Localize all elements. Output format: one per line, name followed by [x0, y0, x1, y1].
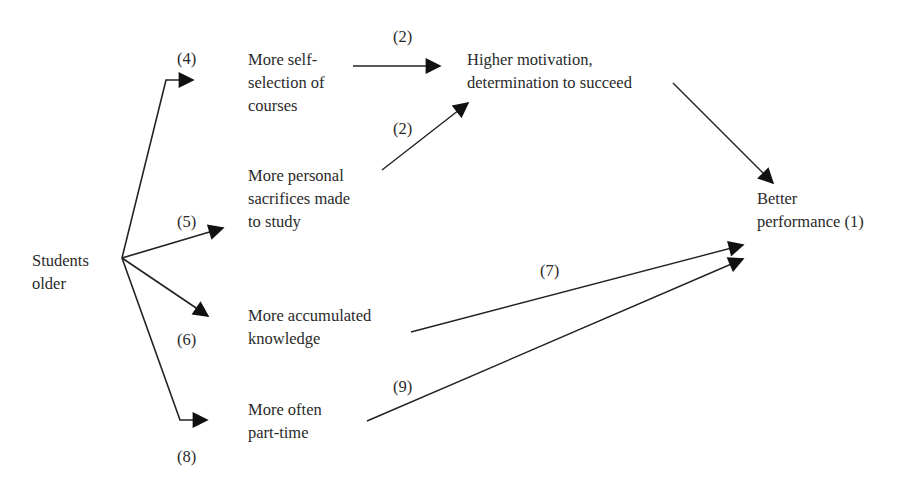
edge-label-7: (7): [540, 259, 559, 282]
node-line: More accumulated: [248, 304, 371, 327]
edges-layer: [0, 0, 916, 483]
arrow-to-sacrifices: [122, 228, 223, 258]
node-line: Higher motivation,: [467, 48, 632, 71]
node-line: part-time: [248, 421, 322, 444]
node-line: More self-: [248, 48, 325, 71]
edge-label-5: (5): [177, 210, 196, 233]
node-self-selection: More self- selection of courses: [248, 48, 325, 117]
node-line: courses: [248, 94, 325, 117]
node-students-older: Students older: [32, 249, 89, 295]
node-line: Students: [32, 249, 89, 272]
node-line: performance (1): [757, 210, 864, 233]
edge-label-2-top: (2): [393, 25, 412, 48]
node-line: older: [32, 272, 89, 295]
node-line: More often: [248, 398, 322, 421]
edge-label-4: (4): [177, 47, 196, 70]
node-line: knowledge: [248, 327, 371, 350]
node-line: selection of: [248, 71, 325, 94]
arrow-to-knowledge: [122, 258, 208, 316]
node-motivation: Higher motivation, determination to succ…: [467, 48, 632, 94]
edge-label-8: (8): [177, 445, 196, 468]
node-part-time: More often part-time: [248, 398, 322, 444]
node-sacrifices: More personal sacrifices made to study: [248, 164, 350, 233]
arrow-part-time-to-performance: [367, 259, 743, 421]
arrow-knowledge-to-performance: [411, 245, 743, 332]
node-knowledge: More accumulated knowledge: [248, 304, 371, 350]
edge-label-9: (9): [393, 375, 412, 398]
node-line: More personal: [248, 164, 350, 187]
node-line: to study: [248, 210, 350, 233]
node-line: sacrifices made: [248, 187, 350, 210]
node-line: Better: [757, 187, 864, 210]
node-line: determination to succeed: [467, 71, 632, 94]
edge-label-2-bottom: (2): [393, 117, 412, 140]
edge-label-6: (6): [177, 328, 196, 351]
arrow-motivation-to-performance: [673, 83, 773, 183]
node-performance: Better performance (1): [757, 187, 864, 233]
causal-diagram: Students older More self- selection of c…: [0, 0, 916, 483]
